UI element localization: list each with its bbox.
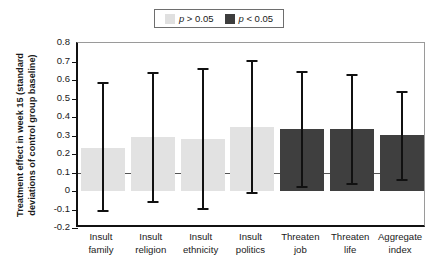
x-axis-label-line: religion — [126, 244, 176, 257]
y-axis-tick-label: -0.1 — [40, 204, 70, 214]
y-axis-tick-label: 0.2 — [40, 148, 70, 158]
x-axis-label-line: Insult — [76, 231, 126, 244]
x-axis-tick-label: Aggregateindex — [375, 231, 425, 256]
error-bar-cap-lower — [397, 179, 408, 181]
error-bar-cap-lower — [347, 183, 358, 185]
error-bar-cap-lower — [197, 208, 208, 210]
y-axis-tick-label: 0.4 — [40, 111, 70, 121]
x-axis-label-line: life — [325, 244, 375, 257]
error-bar-cap-upper — [397, 91, 408, 93]
y-axis-tick-label: 0.8 — [40, 37, 70, 47]
y-axis-tick — [72, 228, 78, 229]
bar-group — [377, 43, 427, 225]
error-bar-cap-lower — [147, 201, 158, 203]
error-bar-cap-lower — [297, 186, 308, 188]
x-axis-label-line: ethnicity — [176, 244, 226, 257]
chart-figure: p > 0.05 p < 0.05 Treatment effect in we… — [0, 0, 438, 272]
x-axis-label-line: politics — [226, 244, 276, 257]
y-axis-tick-label: 0 — [40, 185, 70, 195]
x-axis-tick-labels: InsultfamilyInsultreligionInsultethnicit… — [76, 231, 425, 267]
legend-symbol-p: p — [179, 13, 184, 24]
x-axis-tick-label: Insultethnicity — [176, 231, 226, 256]
error-bar-cap-upper — [97, 82, 108, 84]
bar-group — [128, 43, 178, 225]
error-bar — [251, 60, 253, 194]
y-axis-tick-label: -0.2 — [40, 222, 70, 232]
chart-legend: p > 0.05 p < 0.05 — [154, 9, 284, 28]
error-bar — [301, 71, 303, 188]
error-bar — [351, 74, 353, 185]
bar-group — [228, 43, 278, 225]
y-axis-tick-label: 0.1 — [40, 167, 70, 177]
x-axis-tick-label: Insultreligion — [126, 231, 176, 256]
x-axis-label-line: index — [375, 244, 425, 257]
bar-group — [327, 43, 377, 225]
plot-inner — [78, 43, 424, 225]
bar-group — [78, 43, 128, 225]
legend-entry-significant: p < 0.05 — [225, 14, 274, 24]
error-bar-cap-lower — [97, 210, 108, 212]
legend-operator: > 0.05 — [187, 13, 214, 24]
legend-label-not-significant: p > 0.05 — [179, 14, 214, 24]
error-bar-cap-upper — [147, 72, 158, 74]
y-axis-tick-labels: 0.80.70.60.50.40.30.20.10-0.1-0.2 — [38, 42, 70, 227]
legend-entry-not-significant: p > 0.05 — [165, 14, 214, 24]
x-axis-tick-label: Threatenlife — [325, 231, 375, 256]
bar-group — [277, 43, 327, 225]
y-axis-tick-label: 0.3 — [40, 130, 70, 140]
error-bar-cap-upper — [197, 68, 208, 70]
x-axis-label-line: Threaten — [275, 231, 325, 244]
y-axis-tick-label: 0.7 — [40, 56, 70, 66]
bar-group — [178, 43, 228, 225]
legend-symbol-p: p — [239, 13, 244, 24]
error-bar-cap-upper — [297, 71, 308, 73]
x-axis-label-line: Insult — [176, 231, 226, 244]
y-axis-title: Treatment effect in week 15 (standard de… — [2, 40, 28, 230]
error-bar-cap-upper — [347, 74, 358, 76]
x-axis-tick-label: Insultfamily — [76, 231, 126, 256]
legend-swatch-dark — [225, 14, 235, 24]
error-bar — [401, 91, 403, 181]
legend-operator: < 0.05 — [246, 13, 273, 24]
x-axis-label-line: Insult — [126, 231, 176, 244]
x-axis-tick-label: Threatenjob — [275, 231, 325, 256]
x-axis-tick-label: Insultpolitics — [226, 231, 276, 256]
error-bar-cap-upper — [247, 60, 258, 62]
x-axis-label-line: Insult — [226, 231, 276, 244]
x-axis-label-line: Aggregate — [375, 231, 425, 244]
error-bar — [202, 68, 204, 210]
error-bar — [152, 72, 154, 203]
plot-area — [76, 42, 425, 227]
error-bar-cap-lower — [247, 192, 258, 194]
x-axis-label-line: job — [275, 244, 325, 257]
y-axis-tick-label: 0.6 — [40, 74, 70, 84]
x-axis-label-line: Threaten — [325, 231, 375, 244]
y-axis-tick-label: 0.5 — [40, 93, 70, 103]
legend-swatch-light — [165, 14, 175, 24]
error-bar — [102, 82, 104, 212]
x-axis-label-line: family — [76, 244, 126, 257]
legend-label-significant: p < 0.05 — [239, 14, 274, 24]
